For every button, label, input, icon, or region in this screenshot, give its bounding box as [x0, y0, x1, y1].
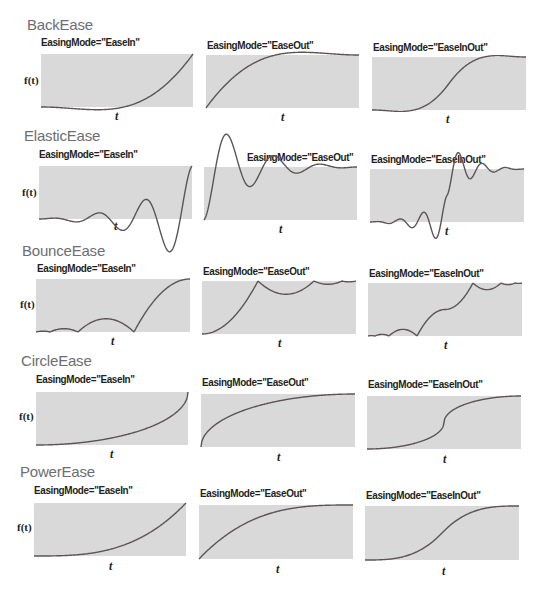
plot-area-bounce-in	[36, 279, 190, 332]
plot-area-elastic-in	[39, 166, 192, 219]
plot-area-elastic-out	[204, 167, 357, 220]
plot-area-power-in	[34, 503, 186, 556]
plot-area-bounce-out	[202, 281, 356, 334]
easing-plots	[0, 0, 536, 590]
easing-functions-figure: BackEase ElasticEase BounceEase CircleEa…	[0, 0, 536, 590]
plot-area-circle-out	[201, 394, 355, 447]
plot-area-circle-in	[36, 392, 188, 445]
plot-area-power-out	[199, 505, 353, 559]
